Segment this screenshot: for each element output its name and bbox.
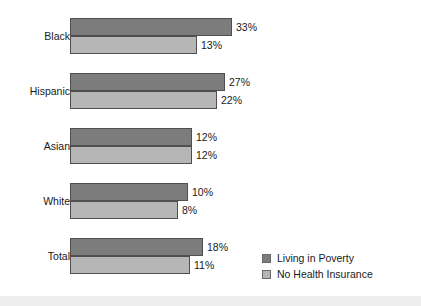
bar-poverty-hispanic[interactable] [70,73,225,91]
legend-item-no-health-insurance[interactable]: No Health Insurance [262,266,417,282]
category-label-hispanic: Hispanic [0,86,70,97]
bar-value-poverty-asian: 12% [196,132,217,143]
bar-uninsured-total[interactable] [70,256,190,274]
bar-value-poverty-white: 10% [192,187,213,198]
legend-item-living-in-poverty[interactable]: Living in Poverty [262,250,417,266]
bar-value-poverty-hispanic: 27% [229,77,250,88]
bar-uninsured-black[interactable] [70,36,197,54]
bar-value-uninsured-total: 11% [194,260,214,271]
bar-value-uninsured-hispanic: 22% [221,95,242,106]
chart-legend: Living in Poverty No Health Insurance [262,250,417,282]
category-label-total: Total [0,251,70,262]
grouped-bar-chart: Black 33% 13% Hispanic 27% [0,0,421,306]
bar-value-poverty-black: 33% [236,22,257,33]
uninsured-swatch-icon [262,270,271,279]
bar-uninsured-white[interactable] [70,201,178,219]
bar-uninsured-hispanic[interactable] [70,91,217,109]
category-label-black: Black [0,31,70,42]
legend-label-no-health-insurance: No Health Insurance [277,269,373,280]
bar-value-poverty-total: 18% [207,242,228,253]
bar-uninsured-asian[interactable] [70,146,192,164]
bar-value-uninsured-white: 8% [182,205,197,216]
legend-label-living-in-poverty: Living in Poverty [277,253,354,264]
bar-value-uninsured-asian: 12% [196,150,217,161]
bar-poverty-asian[interactable] [70,128,192,146]
plot-area: Black 33% 13% Hispanic 27% [0,0,421,292]
bar-value-uninsured-black: 13% [201,40,222,51]
poverty-swatch-icon [262,254,271,263]
category-label-white: White [0,196,70,207]
bar-poverty-total[interactable] [70,238,203,256]
bar-poverty-black[interactable] [70,18,232,36]
bar-poverty-white[interactable] [70,183,188,201]
category-label-asian: Asian [0,141,70,152]
footer-band [0,296,421,306]
